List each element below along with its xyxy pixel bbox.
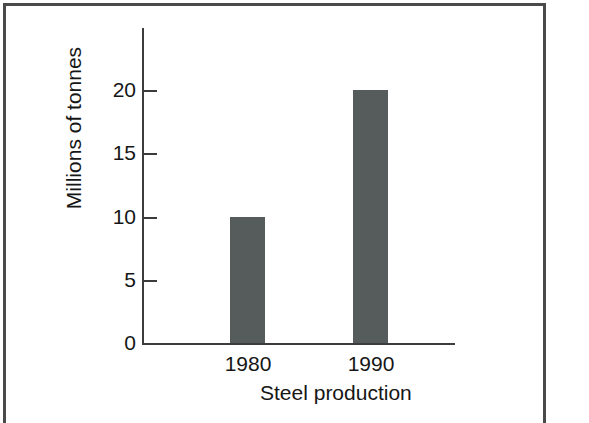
plot-area: 0 5 10 15 20 1980 1990 Steel production … [0, 0, 589, 423]
x-tick-label-1980: 1980 [203, 352, 293, 376]
y-tick-label-15: 15 [96, 141, 136, 165]
y-tick-label-5: 5 [108, 268, 136, 292]
bar-1990[interactable] [353, 90, 388, 343]
y-tick-5 [144, 280, 157, 282]
y-tick-0 [144, 343, 157, 345]
y-tick-label-0: 0 [108, 331, 136, 355]
bar-1980[interactable] [230, 217, 265, 343]
y-axis-title: Millions of tonnes [62, 28, 86, 228]
chart-screenshot: 0 5 10 15 20 1980 1990 Steel production … [0, 0, 589, 423]
y-tick-15 [144, 153, 157, 155]
x-tick-label-1990: 1990 [326, 352, 416, 376]
y-axis-line [142, 28, 144, 345]
x-axis-title: Steel production [260, 381, 412, 405]
y-tick-20 [144, 90, 157, 92]
y-tick-label-10: 10 [96, 205, 136, 229]
y-tick-label-20: 20 [96, 78, 136, 102]
x-axis-line [142, 343, 455, 345]
y-tick-10 [144, 217, 157, 219]
